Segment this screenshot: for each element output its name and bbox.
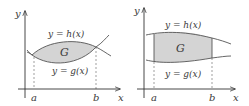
- region-label: G: [60, 46, 69, 59]
- upper-curve-label: y = h(x): [164, 20, 202, 30]
- lower-curve-label: y = g(x): [164, 69, 202, 79]
- bound-b-label: b: [209, 92, 215, 103]
- y-axis-label: y: [14, 8, 21, 19]
- left-panel: y x a b y = h(x) y = g(x) G: [14, 8, 124, 103]
- bound-a-label: a: [31, 92, 37, 103]
- lower-curve-label: y = g(x): [51, 66, 89, 76]
- bound-b-label: b: [93, 92, 99, 103]
- region-label: G: [176, 42, 185, 55]
- x-axis-label: x: [233, 92, 239, 103]
- upper-curve-label: y = h(x): [47, 29, 85, 39]
- y-axis-label: y: [133, 5, 140, 16]
- bound-a-label: a: [151, 92, 157, 103]
- x-axis-label: x: [118, 92, 124, 103]
- right-panel: y x a b y = h(x) y = g(x) G: [133, 5, 239, 103]
- diagram-canvas: y x a b y = h(x) y = g(x) G y x a b y = …: [0, 0, 249, 106]
